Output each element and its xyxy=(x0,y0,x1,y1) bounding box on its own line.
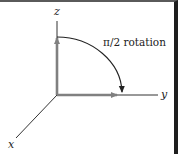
z-axis-label: z xyxy=(54,6,60,17)
x-axis-label: x xyxy=(8,139,14,150)
y-axis-label: y xyxy=(161,89,167,100)
rotation-diagram xyxy=(0,0,178,154)
x-axis-line xyxy=(16,95,57,138)
rotation-annotation: π/2 rotation xyxy=(103,37,166,48)
